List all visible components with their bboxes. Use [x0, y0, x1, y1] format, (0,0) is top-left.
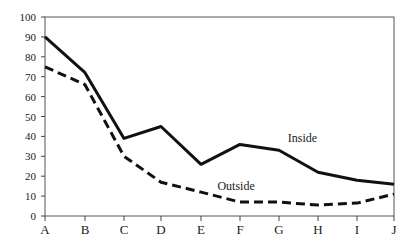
x-tick-label: H	[313, 222, 322, 237]
x-tick-label: I	[355, 222, 359, 237]
series-label-outside: Outside	[217, 179, 254, 193]
y-tick-label: 80	[25, 51, 37, 63]
x-tick-label: A	[40, 222, 50, 237]
y-tick-label: 100	[20, 11, 37, 23]
y-tick-label: 90	[25, 31, 37, 43]
y-tick-label: 60	[25, 91, 37, 103]
x-tick-label: F	[236, 222, 243, 237]
x-tick-label: B	[81, 222, 90, 237]
y-tick-label: 70	[25, 71, 37, 83]
x-tick-label: J	[391, 222, 396, 237]
y-tick-label: 10	[25, 190, 37, 202]
x-tick-label: E	[197, 222, 205, 237]
x-tick-label: G	[274, 222, 283, 237]
series-line-inside	[45, 37, 394, 184]
x-tick-label: D	[156, 222, 165, 237]
y-axis: 0102030405060708090100	[20, 11, 46, 222]
y-tick-label: 0	[31, 210, 37, 222]
y-tick-label: 50	[25, 111, 37, 123]
x-tick-label: C	[120, 222, 129, 237]
y-tick-label: 20	[25, 170, 37, 182]
x-axis: ABCDEFGHIJ	[40, 216, 396, 237]
series-label-inside: Inside	[288, 131, 317, 145]
y-tick-label: 40	[25, 130, 37, 142]
line-chart: 0102030405060708090100 ABCDEFGHIJ Inside…	[0, 0, 417, 246]
y-tick-label: 30	[25, 150, 37, 162]
